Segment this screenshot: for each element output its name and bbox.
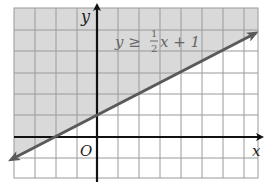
- inequality-lhs: y ≥: [114, 33, 141, 51]
- x-axis-label: x: [252, 142, 261, 160]
- fraction-denominator: 2: [151, 43, 157, 54]
- y-axis-label: y: [80, 7, 91, 26]
- fraction-numerator: 1: [151, 28, 157, 39]
- inequality-rhs: x + 1: [160, 33, 200, 51]
- origin-label: O: [80, 142, 92, 160]
- coordinate-graph: y x O y ≥ 1 2 x + 1: [0, 0, 270, 185]
